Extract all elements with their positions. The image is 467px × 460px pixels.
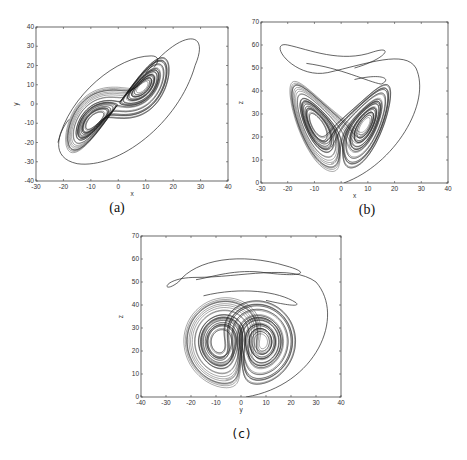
y-tick-label: 0 (255, 179, 259, 186)
x-tick-label: 0 (116, 183, 120, 190)
y-tick-label: 10 (132, 370, 140, 377)
panel-caption: (c) (233, 427, 252, 441)
x-tick-label: 10 (142, 183, 150, 190)
panel-a: -30-20-10010203040-40-30-20-10010203040x… (12, 23, 232, 216)
y-axis-label: z (237, 101, 244, 104)
x-tick-label: -20 (59, 183, 69, 190)
attractor-trajectory (290, 81, 391, 171)
y-tick-label: 10 (252, 156, 260, 163)
plot-area (58, 39, 200, 164)
y-tick-label: -10 (25, 119, 35, 126)
x-tick-label: 40 (337, 399, 345, 406)
y-tick-label: 40 (252, 87, 260, 94)
y-tick-label: 30 (132, 324, 140, 331)
x-axis-label: y (239, 406, 243, 414)
x-tick-label: 20 (170, 183, 178, 190)
x-tick-label: 10 (364, 185, 372, 192)
y-tick-label: -40 (25, 177, 35, 184)
transient-loop (167, 259, 328, 397)
x-tick-label: 30 (312, 399, 320, 406)
x-tick-label: 30 (197, 183, 205, 190)
y-axis-label: z (117, 315, 124, 318)
x-tick-label: 0 (339, 185, 343, 192)
y-tick-label: 70 (132, 232, 140, 239)
y-tick-label: 20 (132, 347, 140, 354)
y-tick-label: -30 (25, 158, 35, 165)
x-tick-label: 20 (287, 399, 295, 406)
panel-c: -40-30-20-10010203040010203040506070yz(c… (117, 232, 345, 441)
panel-caption: (a) (109, 200, 125, 216)
panel-caption: (b) (359, 202, 376, 218)
x-tick-label: 40 (444, 185, 452, 192)
attractor-trajectory (66, 58, 170, 153)
y-tick-label: 60 (132, 255, 140, 262)
x-tick-label: -20 (186, 399, 196, 406)
y-tick-label: 50 (252, 64, 260, 71)
x-tick-label: -10 (86, 183, 96, 190)
x-tick-label: -10 (211, 399, 221, 406)
x-axis-label: x (130, 190, 134, 197)
y-tick-label: 20 (27, 62, 35, 69)
plot-area (167, 259, 328, 397)
x-tick-label: 40 (224, 183, 232, 190)
x-tick-label: -30 (161, 399, 171, 406)
x-tick-label: -20 (283, 185, 293, 192)
x-tick-label: 30 (418, 185, 426, 192)
y-tick-label: 0 (135, 393, 139, 400)
y-tick-label: 40 (132, 301, 140, 308)
y-tick-label: 50 (132, 278, 140, 285)
y-tick-label: 30 (252, 110, 260, 117)
y-tick-label: 0 (30, 100, 34, 107)
x-tick-label: 20 (391, 185, 399, 192)
y-tick-label: 60 (252, 41, 260, 48)
x-tick-label: 10 (262, 399, 270, 406)
y-tick-label: 70 (252, 18, 260, 25)
y-tick-label: 20 (252, 133, 260, 140)
y-tick-label: -20 (25, 139, 35, 146)
y-tick-label: 10 (27, 81, 35, 88)
attractor-trajectory (184, 298, 296, 388)
axes-frame (261, 22, 448, 183)
x-tick-label: 0 (239, 399, 243, 406)
figure-canvas: -30-20-10010203040-40-30-20-10010203040x… (0, 0, 467, 460)
x-tick-label: -10 (310, 185, 320, 192)
x-axis-label: x (353, 192, 357, 199)
plot-area (280, 45, 420, 183)
y-tick-label: 30 (27, 42, 35, 49)
y-tick-label: 40 (27, 23, 35, 30)
panel-b: -30-20-10010203040010203040506070xz(b) (237, 18, 452, 218)
y-axis-label: y (12, 102, 20, 106)
